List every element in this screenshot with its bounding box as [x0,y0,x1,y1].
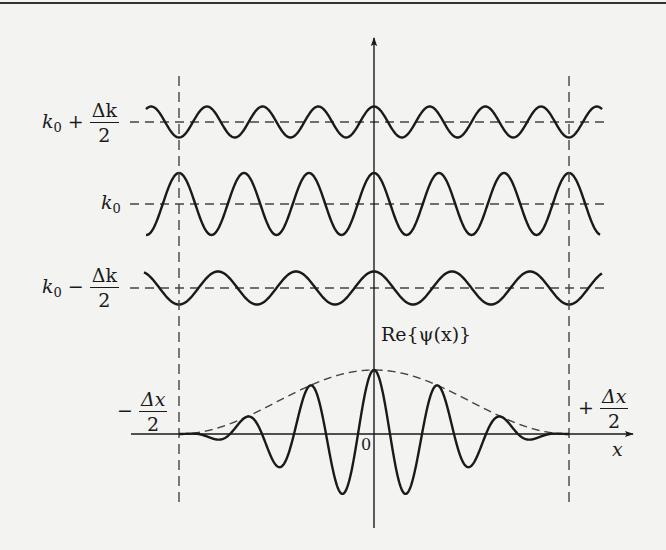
x-axis-label: x [612,440,623,459]
origin-label: 0 [361,437,371,453]
label-minus-dx2: −Δx2 [117,390,167,434]
label-k0-plus-dk2: k0+Δk2 [42,101,119,145]
label-k0: k0 [101,193,121,215]
label-re-psi: Re{ψ(x)} [381,325,471,344]
label-k0-minus-dk2: k0−Δk2 [42,266,119,310]
component-waves [130,107,604,305]
label-plus-dx2: +Δx2 [572,387,628,431]
